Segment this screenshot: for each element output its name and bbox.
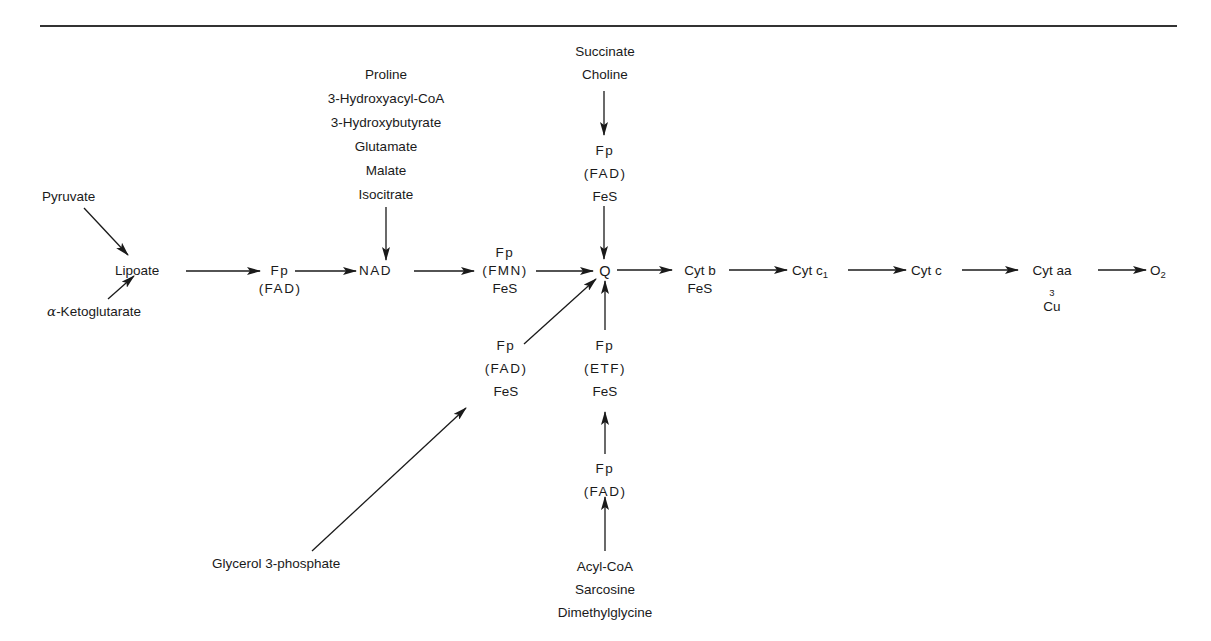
- node-glycerol-fp-fad-fes: Fp (FAD) FeS: [485, 334, 528, 403]
- node-lipoate: Lipoate: [115, 262, 159, 280]
- substrate-proline: Proline: [365, 63, 407, 87]
- substrate-pyruvate: Pyruvate: [42, 188, 95, 206]
- substrate-succinate: Succinate: [575, 40, 634, 63]
- substrate-isocitrate: Isocitrate: [359, 183, 414, 207]
- fp-label: Fp: [271, 262, 290, 280]
- arrow-glycerol-fp: [312, 408, 466, 551]
- ketoglutarate-label: -Ketoglutarate: [56, 304, 141, 319]
- node-cyt-b: Cyt b FeS: [684, 262, 716, 298]
- fmn-label: (FMN): [482, 262, 528, 280]
- node-succinate-fp-fad-fes: Fp (FAD) FeS: [584, 139, 627, 208]
- substrate-choline: Choline: [582, 63, 628, 86]
- alpha-symbol: α: [47, 303, 56, 319]
- node-nad: NAD: [359, 262, 392, 280]
- node-bottom-fp-fad: Fp (FAD): [584, 457, 627, 503]
- substrate-glycerol-3-phosphate: Glycerol 3-phosphate: [212, 555, 340, 573]
- substrate-glutamate: Glutamate: [355, 135, 417, 159]
- substrate-malate: Malate: [366, 159, 407, 183]
- cyt-c1-label: Cyt c: [792, 263, 823, 278]
- node-fp-etf-fes: Fp (ETF) FeS: [584, 334, 626, 403]
- substrate-3-hydroxyacyl-coa: 3-Hydroxyacyl-CoA: [328, 87, 444, 111]
- node-fp-fmn-fes: Fp (FMN) FeS: [482, 244, 528, 298]
- fes-label: FeS: [688, 280, 713, 298]
- node-fp-fad: Fp (FAD): [259, 262, 302, 298]
- cyt-c1-subscript: 1: [823, 269, 828, 280]
- cyt-b-label: Cyt b: [684, 262, 716, 280]
- fes-label: FeS: [493, 280, 518, 298]
- substrate-sarcosine: Sarcosine: [575, 578, 635, 601]
- substrate-dimethylglycine: Dimethylglycine: [558, 601, 653, 624]
- succinate-substrates: Succinate Choline: [575, 40, 634, 86]
- substrate-alpha-ketoglutarate: α-Ketoglutarate: [47, 302, 141, 321]
- node-cyt-c: Cyt c: [911, 262, 942, 280]
- node-o2: O2: [1150, 262, 1166, 280]
- arrow-pyruvate-lipoate: [84, 208, 128, 255]
- substrate-3-hydroxybutyrate: 3-Hydroxybutyrate: [331, 111, 441, 135]
- substrate-acyl-coa: Acyl-CoA: [577, 555, 633, 578]
- node-q: Q: [599, 262, 610, 280]
- fad-label: (FAD): [259, 280, 302, 298]
- nad-substrates-list: Proline 3-Hydroxyacyl-CoA 3-Hydroxybutyr…: [328, 63, 444, 207]
- cu-label: Cu: [1043, 298, 1060, 316]
- diagram-arrows-layer: [0, 0, 1211, 641]
- node-cyt-aa3: Cyt aa3 Cu: [1032, 262, 1071, 316]
- cyt-aa3-label: Cyt aa3: [1032, 262, 1071, 298]
- node-cyt-c1: Cyt c1: [792, 262, 828, 280]
- etf-substrates: Acyl-CoA Sarcosine Dimethylglycine: [558, 555, 653, 624]
- fp-label: Fp: [496, 244, 515, 262]
